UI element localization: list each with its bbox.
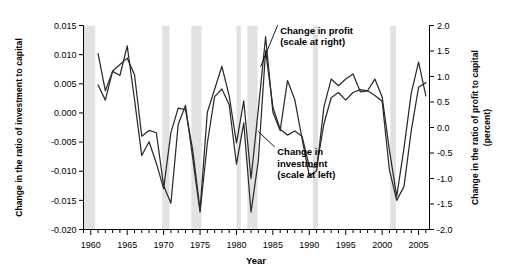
x-axis-title: Year [246, 255, 266, 266]
left-tick-label: 0.015 [54, 21, 77, 31]
x-tick-label: 1985 [263, 240, 283, 250]
recession-band [191, 26, 201, 230]
x-tick-label: 1965 [117, 240, 137, 250]
x-tick-label: 2000 [372, 240, 392, 250]
left-tick-label: -0.010 [51, 166, 77, 176]
right-tick-label: 0.0 [437, 123, 450, 133]
recession-band [162, 26, 169, 230]
right-tick-label: -1.0 [437, 174, 453, 184]
left-axis-title: Change in the ratio of investment to cap… [14, 38, 24, 217]
annotation-text: (scale at left) [277, 169, 335, 180]
right-tick-label: -0.5 [437, 148, 453, 158]
right-tick-label: 1.0 [437, 72, 450, 82]
left-tick-label: 0.010 [54, 50, 77, 60]
x-tick-label: 1975 [190, 240, 210, 250]
left-tick-label: -0.015 [51, 196, 77, 206]
annotation-text: (scale at right) [280, 36, 345, 47]
x-tick-label: 2005 [409, 240, 429, 250]
right-axis-title-line1: Change in the ratio of profit to capital [470, 50, 480, 205]
right-axis-title-line2: (percent) [482, 109, 492, 146]
right-tick-label: 1.5 [437, 46, 450, 56]
recession-band [84, 26, 96, 230]
annotation-text: Change in profit [280, 25, 354, 36]
left-tick-label: -0.005 [51, 137, 77, 147]
recession-band [313, 26, 318, 230]
right-tick-label: 2.0 [437, 21, 450, 31]
right-tick-label: -1.5 [437, 199, 453, 209]
recession-band [390, 26, 396, 230]
right-tick-label: 0.5 [437, 97, 450, 107]
chart-figure: 0.0150.0100.0050.000-0.005-0.010-0.015-0… [0, 0, 514, 273]
right-tick-label: -2.0 [437, 225, 453, 235]
x-tick-label: 1995 [336, 240, 356, 250]
annotation-text: Change in [277, 146, 323, 157]
x-tick-label: 1990 [299, 240, 319, 250]
x-tick-label: 1960 [81, 240, 101, 250]
left-tick-label: 0.000 [54, 108, 77, 118]
x-tick-label: 1980 [226, 240, 246, 250]
annotation-text: investment [277, 158, 328, 169]
left-tick-label: -0.020 [51, 225, 77, 235]
x-tick-label: 1970 [154, 240, 174, 250]
investment-profit-line-chart: 0.0150.0100.0050.000-0.005-0.010-0.015-0… [0, 0, 514, 273]
left-tick-label: 0.005 [54, 79, 77, 89]
